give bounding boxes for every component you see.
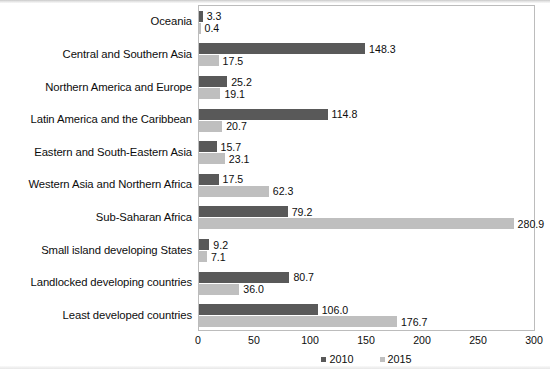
bar-2010-small-island-developing-states — [199, 239, 209, 250]
bar-value-label: 80.7 — [293, 272, 314, 283]
series-2010-swatch — [321, 357, 326, 362]
category-axis-labels: OceaniaCentral and Southern AsiaNorthern… — [0, 5, 195, 331]
x-tick-label: 300 — [525, 334, 543, 346]
bar-2015-central-and-southern-asia — [199, 55, 219, 66]
bar-2015-western-asia-and-northern-africa — [199, 186, 269, 197]
bar-value-label: 114.8 — [332, 109, 358, 120]
bar-value-label: 7.1 — [211, 252, 226, 263]
legend-item-2015[interactable]: 2015 — [380, 353, 412, 365]
category-label: Sub-Saharan Africa — [0, 211, 192, 223]
bar-value-label: 9.2 — [213, 240, 228, 251]
bar-2015-landlocked-developing-countries — [199, 284, 239, 295]
x-tick-label: 200 — [413, 334, 431, 346]
legend-item-2010[interactable]: 2010 — [321, 353, 353, 365]
bar-2010-least-developed-countries — [199, 304, 318, 315]
category-label: Western Asia and Northern Africa — [0, 178, 192, 190]
category-label: Northern America and Europe — [0, 81, 192, 93]
bar-value-label: 280.9 — [518, 219, 545, 230]
bar-value-label: 36.0 — [243, 284, 264, 295]
category-label: Least developed countries — [0, 309, 192, 321]
bar-value-label: 15.7 — [221, 142, 242, 153]
x-tick-label: 0 — [195, 334, 201, 346]
bar-value-label: 20.7 — [226, 121, 247, 132]
bar-2010-landlocked-developing-countries — [199, 272, 289, 283]
bar-2010-latin-america-and-the-caribbean — [199, 109, 328, 120]
x-tick-label: 250 — [469, 334, 487, 346]
category-label: Small island developing States — [0, 244, 192, 256]
bar-value-label: 62.3 — [273, 186, 294, 197]
bar-2015-small-island-developing-states — [199, 251, 207, 262]
bar-2010-western-asia-and-northern-africa — [199, 174, 219, 185]
bar-value-label: 148.3 — [369, 44, 396, 55]
bar-value-label: 17.5 — [223, 174, 244, 185]
bar-value-label: 0.4 — [205, 23, 220, 34]
x-axis-ticks: 050100150200250300 — [198, 332, 535, 348]
bar-value-label: 3.3 — [207, 11, 222, 22]
bar-2010-sub-saharan-africa — [199, 206, 288, 217]
plot-area: 3.30.4148.317.525.219.1114.820.715.723.1… — [198, 5, 535, 331]
category-label: Latin America and the Caribbean — [0, 113, 192, 125]
category-label: Landlocked developing countries — [0, 276, 192, 288]
horizontal-bar-chart: OceaniaCentral and Southern AsiaNorthern… — [0, 0, 550, 369]
bars-container: 3.30.4148.317.525.219.1114.820.715.723.1… — [199, 6, 534, 330]
bar-value-label: 25.2 — [231, 77, 252, 88]
x-tick-label: 50 — [248, 334, 260, 346]
bar-value-label: 106.0 — [322, 305, 349, 316]
bar-2010-northern-america-and-europe — [199, 76, 227, 87]
bar-2010-oceania — [199, 11, 203, 22]
category-label: Central and Southern Asia — [0, 48, 192, 60]
x-tick-label: 100 — [301, 334, 319, 346]
bar-value-label: 23.1 — [229, 154, 250, 165]
category-label: Oceania — [0, 15, 192, 27]
bar-2010-eastern-and-south-eastern-asia — [199, 141, 217, 152]
legend-label: 2015 — [388, 353, 412, 365]
bar-2015-oceania — [199, 23, 201, 34]
bar-2015-eastern-and-south-eastern-asia — [199, 153, 225, 164]
bar-value-label: 19.1 — [224, 89, 245, 100]
bar-value-label: 176.7 — [401, 317, 428, 328]
bar-2015-sub-saharan-africa — [199, 218, 514, 229]
bar-2015-northern-america-and-europe — [199, 88, 220, 99]
bar-value-label: 79.2 — [292, 207, 313, 218]
series-2015-swatch — [380, 357, 385, 362]
category-label: Eastern and South-Eastern Asia — [0, 146, 192, 158]
bar-2015-latin-america-and-the-caribbean — [199, 121, 222, 132]
bar-2015-least-developed-countries — [199, 316, 397, 327]
chart-legend: 20102015 — [198, 352, 535, 366]
bar-2010-central-and-southern-asia — [199, 43, 365, 54]
x-tick-label: 150 — [357, 334, 375, 346]
legend-label: 2010 — [329, 353, 353, 365]
bar-value-label: 17.5 — [223, 56, 244, 67]
